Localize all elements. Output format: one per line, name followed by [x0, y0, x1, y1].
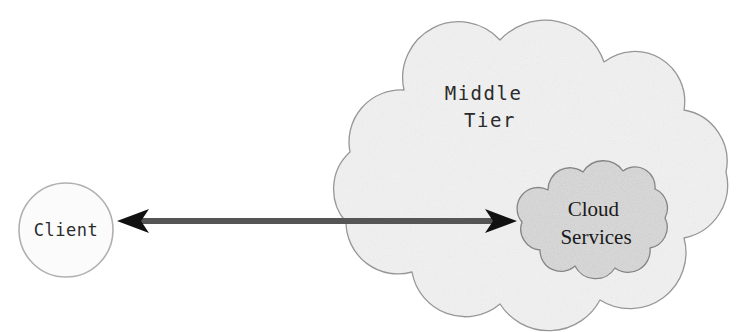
- middle-tier-label-line2: Tier: [464, 109, 516, 131]
- node-middle-tier[interactable]: Middle Tier: [334, 20, 728, 330]
- cloud-services-label-line1: Cloud: [568, 197, 620, 221]
- cloud-services-label-line2: Services: [560, 225, 631, 249]
- middle-tier-cloud-shape: [334, 20, 728, 330]
- node-client[interactable]: Client: [19, 183, 113, 277]
- architecture-diagram: Middle Tier Cloud Services Client: [0, 0, 756, 332]
- middle-tier-label-line1: Middle: [445, 82, 523, 104]
- connector-shaft: [139, 218, 505, 224]
- diagram-canvas: Middle Tier Cloud Services Client: [0, 0, 756, 332]
- client-label: Client: [34, 220, 98, 240]
